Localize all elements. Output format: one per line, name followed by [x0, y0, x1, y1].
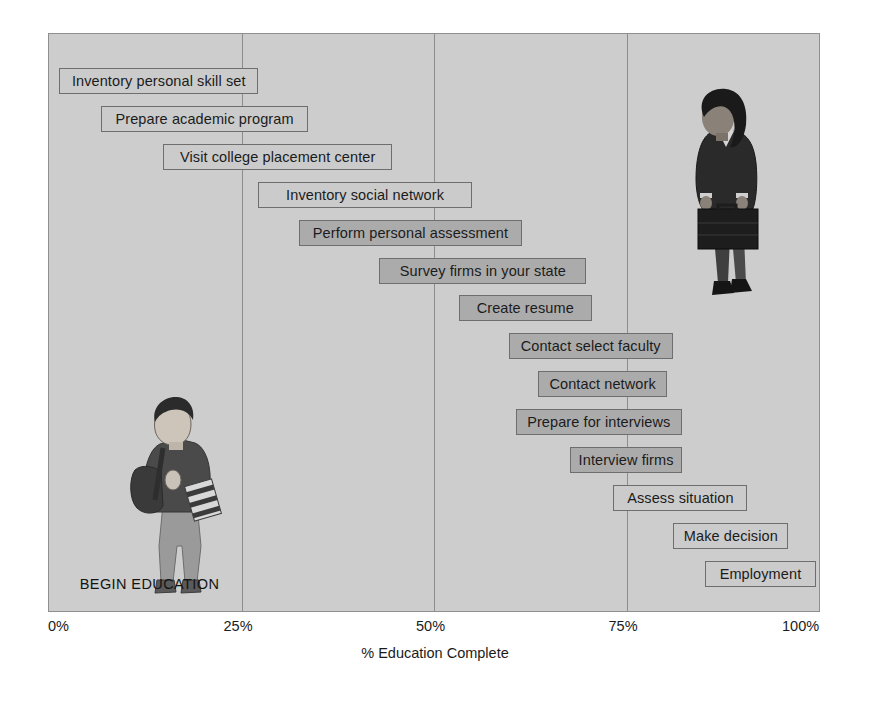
task-bar: Contact network	[538, 371, 667, 397]
x-tick-label: 25%	[224, 618, 253, 634]
task-bar: Perform personal assessment	[299, 220, 522, 246]
professional-figure	[674, 87, 774, 317]
gridline-75	[627, 34, 628, 611]
x-tick-label: 0%	[48, 618, 69, 634]
task-bar: Visit college placement center	[163, 144, 392, 170]
task-bar: Inventory social network	[258, 182, 471, 208]
task-bar: Prepare academic program	[101, 106, 309, 132]
task-bar: Employment	[705, 561, 816, 587]
x-axis-title: % Education Complete	[0, 645, 870, 661]
task-bar: Prepare for interviews	[516, 409, 682, 435]
task-bar: Assess situation	[613, 485, 747, 511]
begin-education-label: BEGIN EDUCATION	[80, 576, 219, 592]
task-bar: Survey firms in your state	[379, 258, 586, 284]
task-bar: Inventory personal skill set	[59, 68, 258, 94]
student-figure	[127, 396, 232, 601]
task-bar: Make decision	[673, 523, 788, 549]
plot-area: Inventory personal skill setPrepare acad…	[48, 33, 820, 612]
x-tick-label: 75%	[609, 618, 638, 634]
task-bar: Interview firms	[570, 447, 682, 473]
career-timeline-chart: Inventory personal skill setPrepare acad…	[0, 0, 870, 704]
x-tick-label: 100%	[782, 618, 819, 634]
gridline-50	[434, 34, 435, 611]
x-tick-label: 50%	[416, 618, 445, 634]
task-bar: Contact select faculty	[509, 333, 673, 359]
task-bar: Create resume	[459, 295, 592, 321]
